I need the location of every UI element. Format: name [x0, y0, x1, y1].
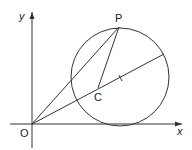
origin-label: O — [20, 127, 29, 139]
segment-cp — [98, 27, 119, 88]
geometry-diagram: y x O P C — [0, 0, 192, 150]
line-o-through-c — [32, 54, 164, 124]
y-axis-label: y — [18, 10, 26, 22]
segment-op — [32, 27, 119, 124]
x-axis-label: x — [176, 125, 183, 137]
point-c-label: C — [94, 91, 102, 103]
y-axis-arrow-icon — [30, 12, 35, 19]
point-p-label: P — [115, 12, 122, 24]
